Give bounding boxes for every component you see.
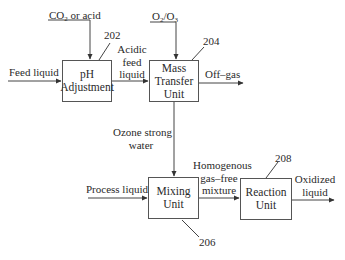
process-liquid-label: Process liquid (86, 183, 148, 196)
o2-o3-label: O2/O3 (152, 10, 178, 27)
oxidized-liquid-label: Oxidized liquid (294, 173, 336, 198)
unit-label-line: Unit (256, 199, 276, 212)
off-gas-label: Off–gas (205, 68, 240, 81)
unit-label-line: Adjustment (60, 81, 114, 94)
acidic-feed-liquid-label: Acidic feed liquid (116, 43, 148, 81)
flow-connectors (0, 0, 345, 260)
unit-label-line: Unit (164, 88, 184, 101)
mixing-unit: Mixing Unit (148, 177, 199, 219)
homogenous-mixture-label: Homogenous gas–free mixture (193, 159, 245, 197)
unit-label-line: Mixing (157, 185, 191, 198)
mass-transfer-unit: Mass Transfer Unit (149, 60, 199, 102)
unit-label-line: Unit (163, 198, 183, 211)
ref-number-202: 202 (104, 29, 121, 41)
unit-label-line: Reaction (246, 186, 287, 199)
ozone-strong-water-label: Ozone strong water (113, 126, 169, 151)
ref-number-206: 206 (199, 236, 216, 248)
unit-label-line: Mass (162, 62, 186, 75)
ref-number-208: 208 (275, 152, 292, 164)
reaction-unit: Reaction Unit (240, 178, 292, 220)
ref-number-204: 204 (203, 35, 220, 47)
co2-acid-label: CO2 or acid (49, 9, 101, 26)
ph-adjustment-unit: pH Adjustment (62, 60, 112, 102)
unit-label-line: Transfer (155, 75, 194, 88)
unit-label-line: pH (80, 68, 94, 81)
feed-liquid-label: Feed liquid (9, 66, 59, 79)
